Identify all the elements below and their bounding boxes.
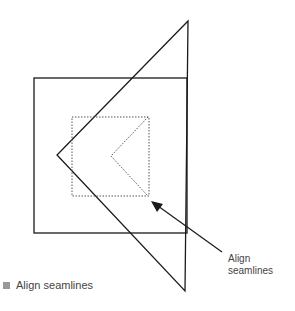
callout-label-line1: Align (228, 253, 273, 265)
dotted-triangle (111, 117, 148, 195)
legend: Align seamlines (3, 279, 93, 291)
callout-label-line2: seamlines (228, 265, 273, 277)
legend-swatch-icon (3, 282, 10, 289)
legend-label: Align seamlines (16, 279, 93, 291)
large-triangle (57, 21, 188, 291)
callout-arrowhead-icon (151, 201, 163, 212)
callout-label: Align seamlines (228, 253, 273, 277)
callout-arrow-line (158, 206, 222, 252)
